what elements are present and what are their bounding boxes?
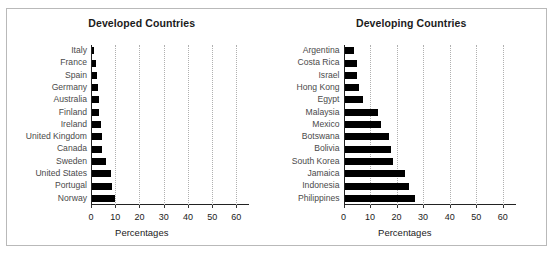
category-label: Canada [9,143,87,154]
bar [92,72,97,79]
bar-row [345,119,518,130]
bar-row [345,143,518,154]
plot-inner-developed: 0102030405060ItalyFranceSpainGermanyAust… [91,45,249,205]
bar [345,47,354,54]
plot-inner-developing: 0102030405060ArgentinaCosta RicaIsraelHo… [344,45,517,205]
x-tick-mark [236,205,237,208]
x-tick-label: 20 [134,212,144,222]
x-tick-mark [139,205,140,208]
category-label: Malaysia [278,107,340,118]
bar [92,195,115,202]
bar-row [92,131,250,142]
bar-row [92,107,250,118]
bar [92,170,111,177]
bar [92,60,96,67]
bar-row [345,131,518,142]
category-label: Finland [9,107,87,118]
x-tick-mark [370,205,371,208]
x-tick-mark [344,205,345,208]
bar [92,121,101,128]
bar [92,109,99,116]
category-label: Botswana [278,131,340,142]
chart-title-developed: Developed Countries [7,17,277,29]
x-tick-mark [91,205,92,208]
chart-panels: Developed Countries 0102030405060ItalyFr… [7,9,546,245]
x-tick-label: 50 [207,212,217,222]
x-tick-label: 60 [231,212,241,222]
bar-row [92,193,250,204]
x-tick-label: 10 [365,212,375,222]
category-label: Germany [9,82,87,93]
category-label: South Korea [278,156,340,167]
bar-row [92,82,250,93]
bar [92,133,102,140]
bar [345,195,416,202]
category-label: Sweden [9,156,87,167]
bar-row [345,45,518,56]
bar-row [92,45,250,56]
bar-row [92,143,250,154]
category-label: Australia [9,94,87,105]
category-label: Indonesia [278,180,340,191]
bar-row [92,168,250,179]
x-tick-label: 40 [183,212,193,222]
bar [345,170,406,177]
category-label: Ireland [9,119,87,130]
bar [92,146,102,153]
x-tick-label: 0 [88,212,93,222]
bar [92,47,94,54]
x-tick-label: 20 [392,212,402,222]
bar [345,121,382,128]
bar-row [345,193,518,204]
bar-row [345,107,518,118]
category-label: United States [9,168,87,179]
x-tick-label: 60 [498,212,508,222]
bar-row [345,168,518,179]
plot-area-developed: 0102030405060ItalyFranceSpainGermanyAust… [91,45,249,205]
figure-frame: Developed Countries 0102030405060ItalyFr… [6,8,547,246]
category-label: Norway [9,193,87,204]
category-label: United Kingdom [9,131,87,142]
bar [345,183,409,190]
x-tick-mark [164,205,165,208]
bar-row [345,94,518,105]
bar-row [92,70,250,81]
bar-row [92,180,250,191]
x-tick-mark [115,205,116,208]
x-axis-label-developed: Percentages [61,227,223,238]
plot-area-developing: 0102030405060ArgentinaCosta RicaIsraelHo… [344,45,517,205]
bar-row [345,156,518,167]
x-tick-mark [503,205,504,208]
x-tick-mark [450,205,451,208]
category-label: Spain [9,70,87,81]
x-tick-label: 40 [445,212,455,222]
x-tick-mark [423,205,424,208]
chart-title-developing: Developing Countries [277,17,547,29]
category-label: Mexico [278,119,340,130]
bar-row [345,57,518,68]
x-tick-mark [476,205,477,208]
category-label: Israel [278,70,340,81]
bar-row [345,180,518,191]
bar [345,60,357,67]
bar-row [92,94,250,105]
category-label: Philippines [278,193,340,204]
category-label: Bolivia [278,143,340,154]
bar [345,146,392,153]
x-tick-mark [397,205,398,208]
bar [92,183,112,190]
category-label: France [9,57,87,68]
bar [345,84,360,91]
x-tick-label: 30 [159,212,169,222]
bar [92,96,99,103]
category-label: Jamaica [278,168,340,179]
chart-panel-developed: Developed Countries 0102030405060ItalyFr… [7,9,277,245]
category-label: Portugal [9,180,87,191]
bar-row [92,119,250,130]
bar-row [345,70,518,81]
category-label: Hong Kong [278,82,340,93]
x-tick-label: 30 [418,212,428,222]
x-tick-mark [188,205,189,208]
x-tick-label: 50 [471,212,481,222]
bar [345,109,378,116]
